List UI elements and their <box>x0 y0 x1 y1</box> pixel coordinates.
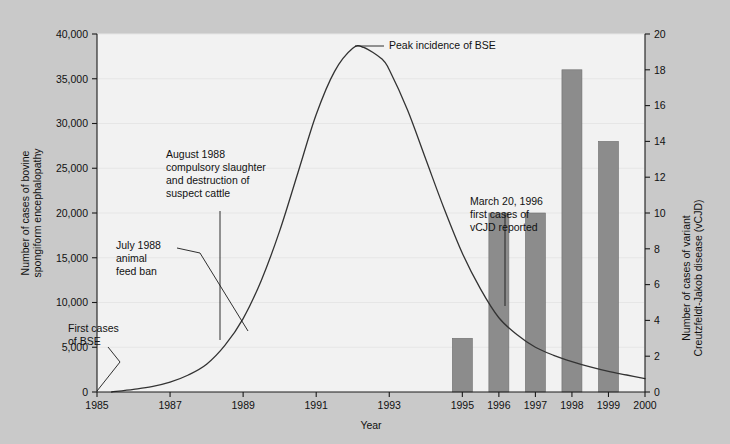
annotation-text-line: August 1988 <box>166 148 225 160</box>
left-tick-label: 20,000 <box>56 207 88 219</box>
x-tick-label: 1997 <box>524 399 548 411</box>
bar-1995 <box>452 338 472 392</box>
bse-vcjd-dual-axis-chart: 05,00010,00015,00020,00025,00030,00035,0… <box>0 0 730 444</box>
annotation-text-line: first cases of <box>470 208 529 220</box>
x-tick-label: 1989 <box>231 399 255 411</box>
annotation-text-line: March 20, 1996 <box>470 195 543 207</box>
bar-1996 <box>489 213 509 392</box>
x-tick-label: 2000 <box>633 399 657 411</box>
right-tick-label: 16 <box>654 99 666 111</box>
right-tick-label: 6 <box>654 278 660 290</box>
left-tick-label: 40,000 <box>56 28 88 40</box>
left-tick-label: 25,000 <box>56 162 88 174</box>
x-tick-label: 1998 <box>560 399 584 411</box>
annotation-text-line: suspect cattle <box>166 187 230 199</box>
chart-figure: 05,00010,00015,00020,00025,00030,00035,0… <box>0 0 730 444</box>
left-y-axis-title-line2: spongiform encephalopathy <box>31 148 43 278</box>
left-tick-label: 30,000 <box>56 117 88 129</box>
right-tick-label: 4 <box>654 314 660 326</box>
annotation-text-line: First cases <box>68 322 119 334</box>
x-tick-label: 1987 <box>158 399 182 411</box>
x-tick-label: 1993 <box>378 399 402 411</box>
right-tick-label: 8 <box>654 243 660 255</box>
annotation-text-line: of BSE <box>68 335 101 347</box>
right-tick-label: 12 <box>654 171 666 183</box>
left-tick-label: 10,000 <box>56 296 88 308</box>
right-tick-label: 2 <box>654 350 660 362</box>
right-tick-label: 20 <box>654 28 666 40</box>
right-y-axis-title-line1: Number of cases of variant <box>680 215 692 341</box>
annotation-text-line: and destruction of <box>166 174 250 186</box>
x-tick-label: 1991 <box>305 399 329 411</box>
x-tick-label: 1985 <box>85 399 109 411</box>
right-y-axis-title-line2: Creutzfeldt-Jakob disease (vCJD) <box>692 200 704 357</box>
annotation-text-line: Peak incidence of BSE <box>389 39 496 51</box>
annotation-text-line: animal <box>116 252 147 264</box>
bar-1998 <box>562 70 582 392</box>
left-tick-label: 15,000 <box>56 252 88 264</box>
right-tick-label: 10 <box>654 207 666 219</box>
x-tick-label: 1995 <box>451 399 475 411</box>
annotation-text-line: feed ban <box>116 265 157 277</box>
right-tick-label: 18 <box>654 64 666 76</box>
left-tick-label: 0 <box>82 386 88 398</box>
annotation-text-line: compulsory slaughter <box>166 161 266 173</box>
x-axis-title: Year <box>360 419 382 431</box>
left-y-axis-title-line1: Number of cases of bovine <box>19 150 31 275</box>
x-tick-label: 1996 <box>487 399 511 411</box>
x-tick-label: 1999 <box>597 399 621 411</box>
right-tick-label: 0 <box>654 386 660 398</box>
bar-1997 <box>525 213 545 392</box>
left-tick-label: 35,000 <box>56 73 88 85</box>
right-tick-label: 14 <box>654 135 666 147</box>
bar-1999 <box>598 141 618 392</box>
annotation-text-line: vCJD reported <box>470 221 538 233</box>
annotation-text-line: July 1988 <box>116 239 161 251</box>
